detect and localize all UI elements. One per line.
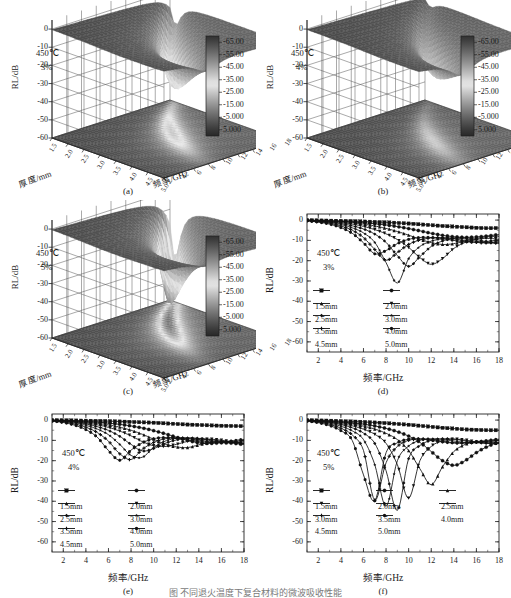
x-tick-label: 8: [377, 356, 395, 365]
x-tick-label: 14: [190, 556, 208, 565]
legend-marker-icon: [58, 486, 75, 495]
y-tick-label: -30: [24, 476, 48, 485]
colorbar-tick-label: -5.000: [223, 312, 244, 321]
figure-bottom-caption: 图 不同退火温度下复合材料的微波吸收性能: [0, 586, 511, 598]
z-tick-label: -60: [277, 133, 303, 142]
line-panel-f: 246810121416180-10-20-30-40-50-60频率/GHzR…: [255, 400, 511, 598]
annotation-percentage: 5%: [323, 462, 334, 472]
x-tick-label: 8: [122, 556, 140, 565]
z-tick-label: -40: [277, 97, 303, 106]
x-tick-label: 12: [422, 556, 440, 565]
y-tick-label: -30: [279, 276, 303, 285]
z-tick-label: -50: [22, 115, 48, 124]
y-tick-label: -10: [24, 435, 48, 444]
annotation-temperature: 450℃: [36, 48, 59, 58]
legend-label: 4.5mm: [60, 540, 82, 549]
colorbar-tick-label: -15.00: [478, 100, 499, 109]
legend-marker-icon: [313, 511, 330, 520]
colorbar-tick-label: -35.00: [223, 75, 244, 84]
y-tick-label: -30: [279, 476, 303, 485]
annotation-percentage: 4%: [68, 462, 79, 472]
legend-item[interactable]: 4.0mm: [439, 499, 463, 526]
y-tick-label: -40: [279, 296, 303, 305]
legend-item[interactable]: 5.0mm: [383, 324, 407, 351]
legend-item[interactable]: 5.0mm: [128, 524, 152, 551]
legend-marker-icon: [128, 486, 145, 495]
z-axis-title: RL/dB: [265, 54, 275, 100]
x-tick-label: 10: [400, 556, 418, 565]
line-panel-d: 246810121416180-10-20-30-40-50-60频率/GHzR…: [255, 200, 511, 398]
legend-item[interactable]: 4.5mm: [58, 524, 82, 551]
legend-marker-icon: [439, 486, 456, 495]
y-tick-label: -40: [279, 496, 303, 505]
x-tick-label: 14: [445, 356, 463, 365]
colorbar-tick-label: -45.00: [478, 62, 499, 71]
x-tick-label: 18: [235, 556, 253, 565]
legend-label: 4.5mm: [315, 527, 337, 536]
annotation-temperature: 450℃: [291, 48, 314, 58]
x-tick-label: 6: [354, 556, 372, 565]
legend-marker-icon: [58, 524, 75, 533]
panel-caption: (d): [255, 386, 511, 396]
z-axis-title: RL/dB: [10, 254, 20, 300]
y-tick-label: 0: [24, 415, 48, 424]
z-tick-label: -30: [22, 279, 48, 288]
y-tick-label: -20: [279, 256, 303, 265]
legend-item[interactable]: 5.0mm: [376, 511, 400, 538]
x-axis-title: 频率/GHz: [255, 370, 511, 384]
z-tick-label: -60: [22, 333, 48, 342]
z-tick-label: 0: [277, 24, 303, 33]
annotation-percentage: 4%: [296, 62, 307, 72]
annotation-percentage: 3%: [323, 262, 334, 272]
colorbar-tick-label: -15.00: [223, 100, 244, 109]
x-tick-label: 4: [332, 356, 350, 365]
x-tick-label: 12: [422, 356, 440, 365]
x-tick-label: 18: [490, 556, 508, 565]
colorbar-tick-label: 5.000: [478, 125, 496, 134]
annotation-percentage: 3%: [41, 62, 52, 72]
colorbar-tick-label: -55.00: [478, 50, 499, 59]
x-axis-title: 频率/GHz: [0, 570, 256, 584]
colorbar-tick-label: -65.00: [478, 37, 499, 46]
legend-marker-icon: [439, 499, 456, 508]
legend-marker-icon: [128, 524, 145, 533]
y-tick-label: -50: [279, 517, 303, 526]
x-tick-label: 16: [212, 556, 230, 565]
annotation-temperature: 450℃: [36, 248, 59, 258]
colorbar-tick-label: -65.00: [223, 37, 244, 46]
legend-marker-icon: [383, 299, 400, 308]
z-tick-label: -30: [22, 79, 48, 88]
colorbar-tick-label: -5.000: [223, 112, 244, 121]
y-tick-label: -10: [279, 435, 303, 444]
legend-marker-icon: [313, 486, 330, 495]
annotation-temperature: 450℃: [62, 448, 85, 458]
y-tick-label: -20: [24, 456, 48, 465]
panel-caption: (b): [255, 186, 511, 196]
y-axis-title: RL/dB: [10, 457, 20, 503]
z-tick-label: -30: [277, 79, 303, 88]
colorbar-tick-label: -25.00: [223, 287, 244, 296]
legend-marker-icon: [376, 486, 393, 495]
legend-label: 4.0mm: [441, 515, 463, 524]
legend-item[interactable]: 4.5mm: [313, 511, 337, 538]
legend-label: 5.0mm: [130, 540, 152, 549]
legend-item[interactable]: 4.5mm: [313, 324, 337, 351]
x-tick-label: 10: [145, 556, 163, 565]
colorbar-tick-label: -45.00: [223, 62, 244, 71]
legend-marker-icon: [383, 324, 400, 333]
y-tick-label: -40: [24, 496, 48, 505]
x-tick-label: 2: [309, 556, 327, 565]
x-tick-label: 2: [309, 356, 327, 365]
colorbar-tick-label: -35.00: [223, 275, 244, 284]
y-tick-label: -50: [279, 317, 303, 326]
y-tick-label: -10: [279, 235, 303, 244]
colorbar-tick-label: -5.000: [478, 112, 499, 121]
x-tick-label: 6: [354, 356, 372, 365]
x-axis-title: 频率/GHz: [255, 570, 511, 584]
x-tick-label: 2: [54, 556, 72, 565]
legend-marker-icon: [58, 511, 75, 520]
line-panel-e: 246810121416180-10-20-30-40-50-60频率/GHzR…: [0, 400, 256, 598]
y-tick-label: -60: [279, 337, 303, 346]
legend-marker-icon: [383, 311, 400, 320]
x-tick-label: 4: [77, 556, 95, 565]
